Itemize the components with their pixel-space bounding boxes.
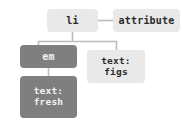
dom-tree-diagram: li attribute em text: figs text: fresh	[0, 0, 182, 126]
node-text-figs[interactable]: text: figs	[87, 50, 145, 83]
node-text-fresh-label: text: fresh	[34, 86, 64, 107]
node-text-fresh[interactable]: text: fresh	[20, 76, 77, 118]
node-attribute[interactable]: attribute	[113, 9, 180, 32]
node-em[interactable]: em	[20, 45, 77, 68]
node-text-figs-label: text: figs	[101, 56, 131, 77]
node-li[interactable]: li	[47, 9, 98, 32]
node-attribute-label: attribute	[119, 15, 175, 26]
node-li-label: li	[66, 15, 78, 26]
node-em-label: em	[42, 51, 54, 62]
